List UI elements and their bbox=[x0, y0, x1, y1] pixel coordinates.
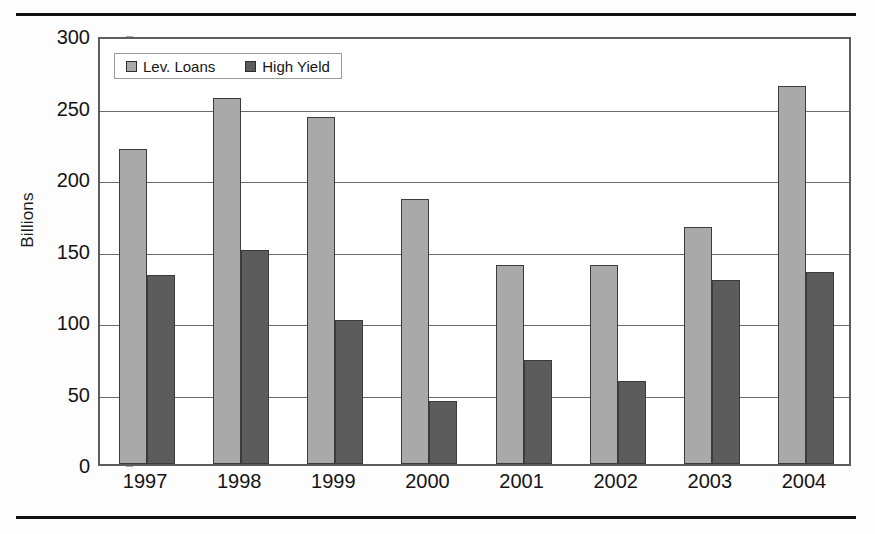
top-rule bbox=[16, 13, 856, 16]
y-axis-tick-label: 0 bbox=[79, 455, 90, 478]
bar bbox=[119, 149, 147, 464]
y-axis-tick-label: 50 bbox=[68, 383, 90, 406]
legend-label: High Yield bbox=[262, 58, 330, 75]
y-axis-tick-label: 200 bbox=[57, 169, 90, 192]
bar bbox=[618, 381, 646, 464]
bar-group bbox=[590, 39, 646, 464]
bar-group bbox=[213, 39, 269, 464]
bar bbox=[590, 265, 618, 464]
bar bbox=[429, 401, 457, 464]
y-axis-tick-labels: 050100150200250300 bbox=[34, 22, 90, 466]
bottom-rule bbox=[16, 516, 856, 519]
bar bbox=[806, 272, 834, 464]
bar bbox=[524, 360, 552, 464]
bar bbox=[213, 98, 241, 464]
bar-group bbox=[401, 39, 457, 464]
bar bbox=[307, 117, 335, 464]
chart-page: Billions 050100150200250300 Lev. LoansHi… bbox=[0, 0, 875, 534]
bar bbox=[712, 280, 740, 464]
x-axis-tick-label: 2002 bbox=[593, 470, 638, 493]
x-axis-tick-label: 2004 bbox=[782, 470, 827, 493]
bar-group bbox=[684, 39, 740, 464]
legend-swatch-icon bbox=[126, 61, 137, 72]
bar bbox=[496, 265, 524, 464]
x-axis-tick-labels: 19971998199920002001200220032004 bbox=[98, 470, 851, 504]
bar-group bbox=[496, 39, 552, 464]
y-axis-tick-label: 100 bbox=[57, 312, 90, 335]
bar bbox=[401, 199, 429, 464]
bar-series-container bbox=[100, 39, 849, 464]
bar bbox=[147, 275, 175, 464]
x-axis-tick-label: 1997 bbox=[123, 470, 168, 493]
bar bbox=[335, 320, 363, 464]
bar-group bbox=[778, 39, 834, 464]
plot-area: Lev. LoansHigh Yield bbox=[98, 37, 851, 466]
legend-swatch-icon bbox=[245, 61, 256, 72]
y-axis-tick-label: 250 bbox=[57, 97, 90, 120]
x-axis-tick-label: 2000 bbox=[405, 470, 450, 493]
bar-group bbox=[307, 39, 363, 464]
legend-entry: Lev. Loans bbox=[126, 58, 215, 75]
y-axis-tick-label: 300 bbox=[57, 26, 90, 49]
x-axis-tick-label: 1999 bbox=[311, 470, 356, 493]
x-axis-tick-label: 1998 bbox=[217, 470, 262, 493]
x-axis-tick-label: 2003 bbox=[688, 470, 733, 493]
bar bbox=[778, 86, 806, 464]
legend-entry: High Yield bbox=[245, 58, 330, 75]
bar bbox=[684, 227, 712, 464]
x-axis-tick-label: 2001 bbox=[499, 470, 544, 493]
bar-chart-figure: Billions 050100150200250300 Lev. LoansHi… bbox=[0, 22, 875, 512]
legend-label: Lev. Loans bbox=[143, 58, 215, 75]
bar bbox=[241, 250, 269, 465]
legend: Lev. LoansHigh Yield bbox=[114, 53, 342, 79]
bar-group bbox=[119, 39, 175, 464]
y-axis-tick-label: 150 bbox=[57, 240, 90, 263]
